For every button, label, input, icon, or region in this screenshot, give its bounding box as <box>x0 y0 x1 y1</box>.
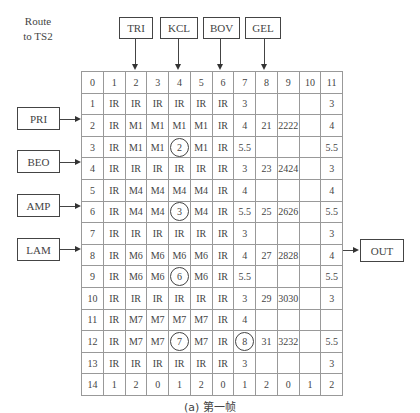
cell-value: IR <box>109 185 119 196</box>
cell-value: 4 <box>177 77 182 88</box>
cell-value: 31 <box>261 336 271 347</box>
grid-cell: M6 <box>190 244 212 266</box>
cell-value: 8 <box>264 77 269 88</box>
cell-value: 7 <box>90 228 95 239</box>
cell-value: IR <box>196 98 206 109</box>
cell-value: M6 <box>151 250 165 261</box>
grid-cell: 2 <box>125 72 147 94</box>
grid-cell: 4 <box>234 244 256 266</box>
circled-cell-value: 3 <box>170 202 189 221</box>
grid-cell: IR <box>212 93 234 115</box>
grid-cell: 4 <box>82 158 104 180</box>
cell-value: 5.5 <box>325 336 338 347</box>
grid-cell: IR <box>190 223 212 245</box>
cell-value: 3 <box>329 228 334 239</box>
cell-value: IR <box>218 185 228 196</box>
grid-cell: 2 <box>125 374 147 396</box>
cell-value: 27 <box>261 250 271 261</box>
cell-value: 0 <box>220 379 225 390</box>
grid-cell <box>256 93 278 115</box>
cell-value: M6 <box>194 271 208 282</box>
grid-cell <box>299 201 321 223</box>
input-label-amp: AMP <box>27 200 51 212</box>
cell-value: 23 <box>261 163 271 174</box>
cell-value: 29 <box>261 293 271 304</box>
cell-value: 9 <box>90 271 95 282</box>
cell-value: 2222 <box>278 120 298 131</box>
grid-cell: M1 <box>190 115 212 137</box>
circled-cell-value: 6 <box>170 267 189 286</box>
connector-beo <box>60 162 76 163</box>
cell-value: 2 <box>133 379 138 390</box>
grid-cell: IR <box>212 266 234 288</box>
cell-value: 11 <box>88 314 98 325</box>
input-box-beo: BEO <box>17 150 60 173</box>
cell-value: IR <box>174 358 184 369</box>
grid-cell: 3 <box>82 136 104 158</box>
cell-value: IR <box>218 120 228 131</box>
arrow-right-icon <box>353 247 359 253</box>
cell-value: M1 <box>194 142 208 153</box>
grid-cell: 5.5 <box>321 331 343 353</box>
grid-row: 2IRM1M1M1M1IR42122224 <box>82 115 343 137</box>
connector-pri <box>60 119 76 120</box>
grid-cell: 5 <box>82 179 104 201</box>
grid-cell: 2 <box>256 374 278 396</box>
grid-cell: IR <box>212 158 234 180</box>
grid-cell: 7 <box>82 223 104 245</box>
circled-cell-value: 2 <box>170 138 189 157</box>
grid-cell: M1 <box>147 136 169 158</box>
grid-cell: 3 <box>321 352 343 374</box>
grid-cell: 1 <box>103 374 125 396</box>
grid-cell: IR <box>125 287 147 309</box>
grid-cell: IR <box>125 352 147 374</box>
input-box-pri: PRI <box>17 107 60 130</box>
grid-cell: IR <box>190 352 212 374</box>
connector-kcl <box>178 39 179 65</box>
grid-cell: IR <box>169 352 191 374</box>
output-label-out: OUT <box>371 245 394 257</box>
grid-cell <box>256 266 278 288</box>
grid-cell: M4 <box>147 179 169 201</box>
cell-value: 2 <box>90 120 95 131</box>
cell-value: 4 <box>329 185 334 196</box>
grid-cell: M4 <box>190 179 212 201</box>
grid-cell: 1 <box>299 374 321 396</box>
grid-row: 6IRM4M43M4IR5.52526265.5 <box>82 201 343 223</box>
cell-value: IR <box>218 293 228 304</box>
cell-value: IR <box>109 358 119 369</box>
grid-cell: M7 <box>147 309 169 331</box>
grid-cell: M6 <box>125 244 147 266</box>
cell-value: IR <box>109 98 119 109</box>
grid-cell: 0 <box>82 72 104 94</box>
grid-cell: IR <box>212 352 234 374</box>
cell-value: M1 <box>151 120 165 131</box>
grid-cell: IR <box>103 223 125 245</box>
cell-value: IR <box>153 358 163 369</box>
grid-cell: M1 <box>169 115 191 137</box>
grid-cell: IR <box>103 201 125 223</box>
grid-cell: IR <box>212 201 234 223</box>
input-label-tri: TRI <box>127 22 145 34</box>
grid-cell: M7 <box>190 331 212 353</box>
cell-value: 8 <box>90 250 95 261</box>
grid-cell: 3 <box>234 352 256 374</box>
grid-cell: 8 <box>234 331 256 353</box>
cell-value: 1 <box>307 379 312 390</box>
circled-cell-value: 8 <box>235 332 254 351</box>
grid-row: 9IRM6M66M6IR5.55.5 <box>82 266 343 288</box>
cell-value: 2828 <box>278 250 298 261</box>
grid-cell: M4 <box>125 201 147 223</box>
cell-value: 14 <box>87 379 97 390</box>
grid-cell: IR <box>212 115 234 137</box>
cell-value: 0 <box>286 379 291 390</box>
cell-value: 13 <box>87 358 97 369</box>
cell-value: M4 <box>151 206 165 217</box>
cell-value: 10 <box>87 293 97 304</box>
grid-cell: IR <box>147 93 169 115</box>
route-to-ts2-label: Route to TS2 <box>18 14 58 44</box>
grid-cell: IR <box>190 287 212 309</box>
connector-lam <box>60 249 76 250</box>
cell-value: IR <box>218 142 228 153</box>
grid-cell: 8 <box>82 244 104 266</box>
